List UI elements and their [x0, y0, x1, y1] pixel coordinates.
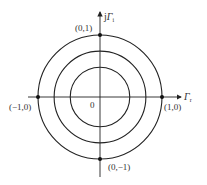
- reflection-plane-diagram: 0 jΓi Γr (0,1) (1,0) (−1,0) (0,−1): [0, 0, 207, 185]
- point-neg1-0: [36, 95, 40, 99]
- imag-axis-label: jΓi: [103, 11, 114, 23]
- point-label-0-1: (0,1): [75, 23, 92, 33]
- point-label-0-neg1: (0,−1): [108, 162, 130, 172]
- point-label-1-0: (1,0): [164, 102, 181, 112]
- point-0-1: [98, 33, 102, 37]
- point-1-0: [160, 95, 164, 99]
- origin-label: 0: [90, 100, 95, 110]
- real-axis-label: Γr: [183, 91, 192, 103]
- point-label-neg1-0: (−1,0): [9, 102, 31, 112]
- point-0-neg1: [98, 157, 102, 161]
